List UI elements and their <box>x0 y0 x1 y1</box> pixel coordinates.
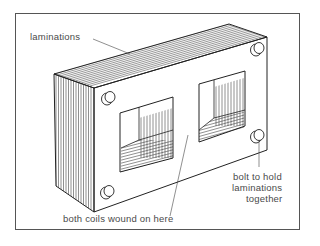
coils-label: both coils wound on here <box>63 213 173 224</box>
bolt-top-right <box>251 43 265 57</box>
left-window <box>110 97 180 178</box>
bolt-label-line2: laminations <box>232 182 282 193</box>
laminations-leader <box>93 39 130 54</box>
left-face <box>54 74 94 212</box>
right-window <box>190 70 255 148</box>
bolt-label-line3: together <box>246 193 282 204</box>
laminations-label: laminations <box>30 31 80 42</box>
bolt-label-line1: bolt to hold <box>233 171 282 182</box>
bolt-bottom-right <box>251 130 265 144</box>
bolt-top-left <box>102 92 116 106</box>
bolt-bottom-left <box>101 186 115 200</box>
left-face-laminations <box>56 70 91 215</box>
top-face-laminations <box>54 24 265 86</box>
